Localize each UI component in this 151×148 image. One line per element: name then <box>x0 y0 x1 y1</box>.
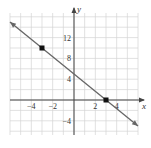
y-tick-label: 4 <box>67 75 71 84</box>
y-axis-arrow-icon <box>72 7 77 13</box>
x-tick-label: 2 <box>93 102 97 111</box>
y-tick-label: −4 <box>62 117 71 126</box>
data-point <box>39 46 44 51</box>
y-tick-label: 8 <box>67 54 71 63</box>
x-tick-label: −2 <box>48 102 57 111</box>
data-point <box>104 98 109 103</box>
y-axis-label: y <box>76 4 81 14</box>
line-graph: −4−224−44812 x y <box>0 0 151 148</box>
y-tick-label: 12 <box>63 34 71 43</box>
x-axis-label: x <box>141 101 146 111</box>
x-tick-label: −4 <box>27 102 36 111</box>
